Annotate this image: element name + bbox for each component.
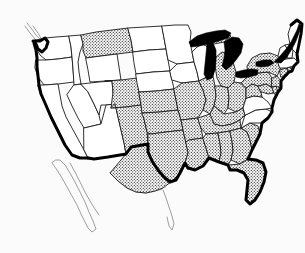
state-MT[interactable] xyxy=(81,28,133,58)
gulf-of-california-outline xyxy=(70,163,99,215)
state-SD[interactable] xyxy=(133,49,170,74)
mexico-east-coast-outline xyxy=(163,190,174,230)
us-map-svg xyxy=(0,0,305,253)
state-KS[interactable] xyxy=(139,89,178,113)
states-layer xyxy=(33,20,302,204)
state-ND[interactable] xyxy=(128,26,166,52)
map-figure xyxy=(0,0,305,253)
state-WY[interactable] xyxy=(86,54,121,82)
state-NE[interactable] xyxy=(136,71,174,92)
state-OR[interactable] xyxy=(35,57,74,85)
